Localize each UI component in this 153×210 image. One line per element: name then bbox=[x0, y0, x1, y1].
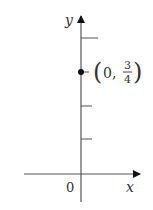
point-label-numerator: 3 bbox=[124, 59, 131, 72]
point-label-x: 0, bbox=[103, 65, 116, 81]
x-axis-label: x bbox=[126, 179, 134, 195]
y-axis-label: y bbox=[64, 12, 74, 28]
point-label-close-paren: ) bbox=[133, 58, 142, 86]
point-marker bbox=[78, 69, 84, 75]
origin-label: 0 bbox=[66, 180, 74, 195]
graph: ( 0, 3 4 ) y x 0 bbox=[0, 0, 153, 210]
point-label-open-paren: ( bbox=[93, 58, 102, 86]
point-label-denominator: 4 bbox=[124, 73, 131, 86]
